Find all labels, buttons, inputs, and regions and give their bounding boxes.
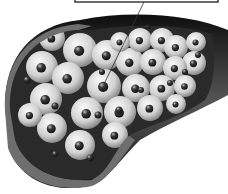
cell-nucleus — [110, 132, 118, 140]
particle — [95, 112, 102, 119]
particle — [24, 77, 31, 84]
cell-nucleus — [117, 40, 123, 46]
particle — [138, 87, 144, 93]
particle — [116, 107, 123, 114]
cell-nucleus — [158, 37, 165, 44]
cell-nucleus — [131, 85, 139, 93]
particle — [87, 155, 94, 162]
cell-nucleus — [125, 59, 133, 67]
cell-nucleus — [148, 59, 156, 67]
cell-nucleus — [26, 112, 33, 119]
cell-nucleus — [81, 109, 91, 119]
cell-nucleus — [145, 105, 153, 113]
label-box — [75, 0, 218, 2]
cell-nucleus — [102, 51, 111, 60]
cell-nucleus — [172, 44, 179, 51]
cell-nucleus — [74, 46, 84, 56]
cell-nucleus — [190, 60, 197, 67]
cell-nucleus — [181, 83, 188, 90]
particle — [99, 69, 105, 75]
cell-nucleus — [193, 40, 199, 46]
cell-nucleus — [98, 82, 108, 92]
particle — [52, 103, 59, 110]
cell-nucleus — [173, 102, 179, 108]
cell-nucleus — [47, 124, 56, 133]
particle — [167, 80, 173, 86]
cell-nucleus — [40, 95, 50, 105]
particle — [195, 52, 201, 58]
cell-nucleus — [171, 65, 178, 72]
cell-nucleus — [62, 74, 72, 84]
particle — [182, 69, 188, 75]
vessel-illustration — [0, 0, 228, 194]
cell-nucleus — [136, 37, 143, 44]
particle — [52, 151, 58, 157]
cell-nucleus — [75, 141, 84, 150]
cell-cluster — [18, 23, 206, 162]
cell-nucleus — [36, 63, 46, 73]
cell-nucleus — [157, 85, 165, 93]
